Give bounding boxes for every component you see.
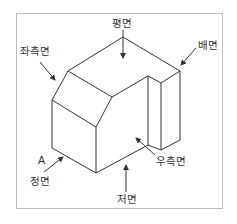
label-front-view: 정면 — [30, 176, 50, 187]
label-left-side-view: 좌측면 — [20, 46, 50, 57]
label-back-view: 배면 — [198, 40, 218, 51]
label-point-a: A — [38, 155, 45, 166]
label-top-view: 평면 — [112, 18, 132, 29]
arrow-back — [181, 48, 196, 65]
arrow-front — [44, 157, 63, 172]
label-bottom-view: 저면 — [117, 194, 137, 205]
isometric-object-drawing — [0, 0, 237, 224]
arrow-left-side — [40, 62, 55, 80]
right-face-edges — [96, 76, 148, 173]
top-face-edges — [68, 37, 180, 97]
front-face-edges — [52, 100, 96, 173]
label-right-side-view: 우측면 — [156, 156, 186, 167]
